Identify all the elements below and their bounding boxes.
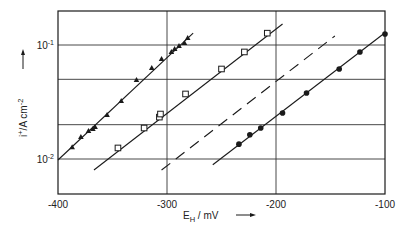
circle-marker	[280, 110, 286, 116]
circle-marker	[247, 132, 253, 138]
square-marker	[183, 91, 189, 97]
square-marker	[141, 125, 147, 131]
data-series	[58, 24, 388, 170]
square-marker	[264, 30, 270, 36]
square-marker	[158, 111, 164, 117]
chart-canvas: -400-300-200-100 10-110-2 EH / mV i+/A c…	[0, 0, 412, 232]
x-axis-arrow-icon	[236, 213, 256, 217]
x-tick-label: -200	[266, 199, 286, 210]
x-tick-label: -300	[157, 199, 177, 210]
series-open-squares	[94, 24, 283, 170]
svg-text:EH / mV: EH / mV	[183, 210, 219, 224]
square-marker	[219, 66, 225, 72]
y-axis-label: i+/A cm-2	[16, 49, 29, 137]
series-triangles	[58, 33, 193, 160]
triangle-marker	[176, 43, 182, 48]
series-dashed-reference	[162, 36, 335, 170]
circle-marker	[336, 66, 342, 72]
circle-marker	[382, 31, 388, 37]
triangle-marker	[149, 65, 155, 70]
square-marker	[242, 49, 248, 55]
gridlines	[58, 11, 385, 194]
y-tick-labels: 10-110-2	[37, 39, 54, 165]
plot-frame	[58, 11, 385, 194]
series-filled-circles	[213, 31, 388, 165]
fit-line	[162, 36, 335, 170]
circle-marker	[236, 141, 242, 147]
y-tick-label: 10-2	[37, 153, 54, 165]
x-tick-labels: -400-300-200-100	[48, 199, 395, 210]
y-axis-arrow-icon	[21, 49, 25, 69]
svg-text:i+/A cm-2: i+/A cm-2	[16, 99, 29, 137]
circle-marker	[357, 49, 363, 55]
circle-marker	[304, 90, 310, 96]
circle-marker	[258, 125, 264, 131]
x-axis-label: EH / mV	[183, 210, 256, 224]
square-marker	[115, 145, 121, 151]
y-tick-label: 10-1	[37, 39, 54, 51]
x-tick-label: -400	[48, 199, 68, 210]
triangle-marker	[159, 56, 165, 61]
x-tick-label: -100	[375, 199, 395, 210]
